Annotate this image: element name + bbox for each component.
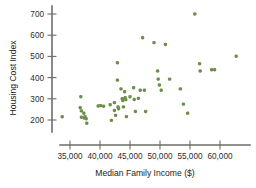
- data-point: [168, 77, 171, 80]
- data-point: [134, 110, 137, 113]
- data-point: [125, 115, 128, 118]
- data-point: [122, 105, 125, 108]
- y-tick-label: 700: [30, 10, 44, 19]
- data-point: [158, 83, 161, 86]
- data-point: [110, 119, 113, 122]
- data-point: [157, 77, 160, 80]
- data-point: [123, 90, 126, 93]
- data-point: [79, 95, 82, 98]
- data-point: [113, 101, 116, 104]
- y-tick-label: 400: [30, 74, 44, 83]
- data-point: [85, 117, 88, 120]
- data-point: [139, 89, 142, 92]
- data-point: [113, 109, 116, 112]
- y-tick-label: 300: [30, 95, 44, 104]
- data-point: [152, 41, 155, 44]
- x-tick-label: 35,000: [57, 152, 82, 161]
- data-point: [128, 95, 131, 98]
- data-point: [114, 114, 117, 117]
- x-tick-label: 40,000: [87, 152, 112, 161]
- data-point: [198, 62, 201, 65]
- data-point: [186, 112, 189, 115]
- data-point: [82, 112, 85, 115]
- data-point: [141, 36, 144, 39]
- data-point: [144, 110, 147, 113]
- data-point: [124, 98, 127, 101]
- ticks-group: 20030040050060070035,00040,00045,00050,0…: [30, 10, 233, 161]
- data-point: [85, 121, 88, 124]
- x-tick-label: 50,000: [147, 152, 172, 161]
- chart-canvas: 20030040050060070035,00040,00045,00050,0…: [0, 0, 256, 188]
- data-point: [143, 89, 146, 92]
- data-point: [117, 107, 120, 110]
- data-point: [164, 43, 167, 46]
- data-points-group: [61, 12, 238, 125]
- data-point: [99, 104, 102, 107]
- data-point: [160, 89, 163, 92]
- axes-group: [52, 6, 250, 145]
- data-point: [156, 69, 159, 72]
- data-point: [119, 87, 122, 90]
- data-point: [213, 68, 216, 71]
- y-tick-label: 500: [30, 52, 44, 61]
- data-point: [182, 102, 185, 105]
- data-point: [116, 78, 119, 81]
- data-point: [80, 116, 83, 119]
- x-tick-label: 45,000: [117, 152, 142, 161]
- data-point: [137, 97, 140, 100]
- data-point: [133, 98, 136, 101]
- data-point: [132, 86, 135, 89]
- data-point: [61, 115, 64, 118]
- data-point: [109, 103, 112, 106]
- data-point: [79, 106, 82, 109]
- scatter-plot-figure: 20030040050060070035,00040,00045,00050,0…: [0, 0, 256, 188]
- x-tick-label: 55,000: [177, 152, 202, 161]
- data-point: [116, 61, 119, 64]
- data-point: [199, 69, 202, 72]
- data-point: [121, 99, 124, 102]
- x-axis-title: Median Family Income ($): [95, 168, 194, 178]
- y-tick-label: 600: [30, 31, 44, 40]
- x-tick-label: 60,000: [207, 152, 232, 161]
- data-point: [193, 12, 196, 15]
- data-point: [235, 54, 238, 57]
- data-point: [102, 105, 105, 108]
- y-axis-title: Housing Cost Index: [8, 40, 18, 116]
- data-point: [210, 68, 213, 71]
- y-tick-label: 200: [30, 116, 44, 125]
- data-point: [179, 87, 182, 90]
